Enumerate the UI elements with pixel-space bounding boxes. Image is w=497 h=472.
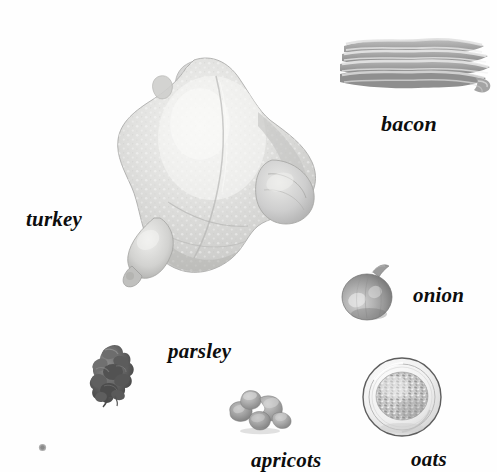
ingredients-illustration-canvas: turkey <box>0 0 497 472</box>
bacon-illustration <box>338 34 492 98</box>
onion-illustration <box>339 258 399 322</box>
bacon-label: bacon <box>381 113 437 135</box>
apricots-label: apricots <box>251 450 321 471</box>
oats-illustration <box>360 356 446 442</box>
onion-label: onion <box>413 285 464 306</box>
turkey-illustration <box>108 52 330 286</box>
oats-label: oats <box>411 449 447 470</box>
gray-speck-icon <box>38 443 47 452</box>
parsley-illustration <box>88 342 138 408</box>
turkey-label: turkey <box>26 209 82 230</box>
parsley-label: parsley <box>168 341 231 362</box>
apricots-illustration <box>224 388 304 436</box>
